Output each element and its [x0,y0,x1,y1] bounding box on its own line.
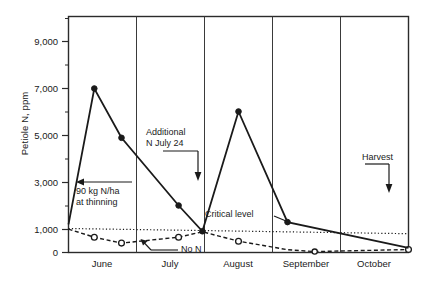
x-tick-label-september: September [272,258,340,269]
annotation-critical-level: Critical level [205,209,254,220]
x-tick-label-august: August [204,258,272,269]
y-tick-label-3000: 3,000 [12,177,58,188]
y-axis-title: Petiole N, ppm [19,54,30,194]
annotation-no-n: No N [181,244,202,255]
y-tick-label-9000: 9,000 [12,36,58,47]
annotation-thinning-line1: 90 kg N/ha [76,186,120,197]
chart-canvas [0,0,423,290]
y-tick-label-1000: 1,000 [12,224,58,235]
annotation-harvest: Harvest [362,152,393,163]
annotation-additional-n-line2: N July 24 [146,138,186,149]
thinning-arrow-icon [76,179,132,186]
additional-n-arrow-icon [163,151,201,181]
critical-level-line [69,229,409,234]
annotation-additional-n: Additional N July 24 [146,127,186,148]
y-axis-major-ticks [62,42,69,253]
y-tick-label-7000: 7,000 [12,83,58,94]
no-n-arrow-icon [141,239,179,250]
annotation-additional-n-line1: Additional [146,127,186,138]
annotation-thinning-line2: at thinning [76,197,120,208]
x-tick-label-june: June [68,258,136,269]
y-tick-label-0: 0 [12,247,58,258]
x-tick-label-october: October [340,258,408,269]
harvest-arrow-icon [365,164,392,193]
x-tick-label-july: July [136,258,204,269]
y-tick-label-5000: 5,000 [12,130,58,141]
series-no-n-markers [91,234,411,254]
annotation-thinning: 90 kg N/ha at thinning [76,186,120,207]
chart-figure: Petiole N, ppm 9,000 7,000 5,000 3,000 1… [0,0,423,290]
